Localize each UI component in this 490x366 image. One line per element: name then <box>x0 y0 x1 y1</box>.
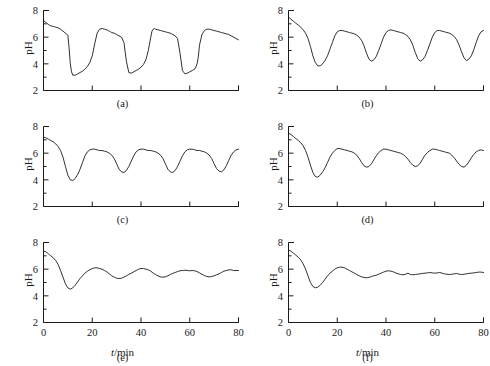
x-tick-label: 60 <box>430 327 441 338</box>
data-curve-e <box>44 251 239 289</box>
x-tick-label: 60 <box>185 327 196 338</box>
y-tick-label: 2 <box>278 317 283 328</box>
axis-lines <box>44 243 239 323</box>
plot-area-f: 2468020406080 <box>288 242 483 352</box>
y-tick-label: 8 <box>278 237 283 248</box>
x-tick-label: 0 <box>286 327 291 338</box>
x-tick-label: 80 <box>233 327 244 338</box>
x-tick-label: 0 <box>41 327 46 338</box>
y-tick-label: 4 <box>33 291 39 302</box>
panel-label-e: (e) <box>0 352 245 363</box>
y-tick-label: 8 <box>33 237 38 248</box>
panel-label-f: (f) <box>245 352 490 363</box>
x-tick-label: 20 <box>87 327 98 338</box>
figure-ph-oscillations: pH2468(a)pH2468(b)pH2468(c)pH2468(d)pH24… <box>0 0 490 366</box>
panel-f: pH2468020406080t/min(f) <box>245 0 490 366</box>
x-tick-label: 20 <box>332 327 343 338</box>
x-tick-label: 40 <box>381 327 392 338</box>
plot-area-e: 2468020406080 <box>43 242 238 352</box>
y-tick-label: 6 <box>278 264 283 275</box>
x-tick-label: 80 <box>478 327 489 338</box>
y-tick-label: 2 <box>33 317 38 328</box>
y-tick-label: 6 <box>33 264 38 275</box>
x-tick-label: 40 <box>136 327 147 338</box>
panel-e: pH2468020406080t/min(e) <box>0 0 245 366</box>
data-curve-f <box>289 250 484 288</box>
y-tick-label: 4 <box>278 291 284 302</box>
axis-lines <box>289 243 484 323</box>
